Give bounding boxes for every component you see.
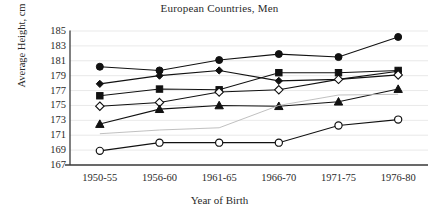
filled-triangle-marker	[394, 85, 402, 93]
filled-circle-marker	[335, 54, 342, 61]
open-diamond-marker	[96, 102, 104, 110]
filled-diamond-marker	[96, 80, 103, 87]
x-axis-tick: 1966-70	[261, 172, 296, 184]
open-circle-marker	[216, 139, 223, 146]
x-axis-tick: 1950-55	[82, 172, 117, 184]
filled-square-marker	[97, 93, 103, 99]
x-axis-tick-labels: 1950-551956-601961-651966-701971-751976-…	[70, 168, 428, 188]
filled-circle-marker	[395, 33, 402, 40]
filled-circle-marker	[275, 51, 282, 58]
open-diamond-marker	[275, 86, 283, 94]
series-filled-diamond	[96, 67, 402, 88]
open-circle-marker	[156, 139, 163, 146]
x-axis-tick: 1971-75	[321, 172, 356, 184]
series-faint-line	[100, 94, 398, 133]
axis-lines	[65, 31, 428, 166]
filled-circle-marker	[96, 63, 103, 70]
filled-square-marker	[276, 69, 282, 75]
gridlines	[70, 31, 428, 165]
open-circle-marker	[395, 116, 402, 123]
data-series-layer	[96, 33, 403, 154]
open-circle-marker	[335, 122, 342, 129]
series-filled-square-line	[100, 70, 398, 95]
filled-diamond-marker	[275, 77, 282, 84]
open-diamond-marker	[334, 75, 342, 83]
series-filled-circle-line	[100, 37, 398, 71]
filled-square-marker	[156, 86, 162, 92]
x-axis-tick: 1961-65	[202, 172, 237, 184]
open-circle-marker	[96, 147, 103, 154]
series-faint-line-line	[100, 94, 398, 133]
filled-circle-marker	[216, 57, 223, 64]
series-filled-square	[97, 67, 402, 99]
x-axis-tick: 1976-80	[381, 172, 416, 184]
series-filled-circle	[96, 33, 401, 74]
open-circle-marker	[275, 139, 282, 146]
chart-container: European Countries, Men Average Height, …	[0, 0, 439, 219]
series-filled-triangle-line	[100, 89, 398, 124]
x-axis-tick: 1956-60	[142, 172, 177, 184]
x-axis-label: Year of Birth	[0, 194, 439, 206]
filled-diamond-marker	[216, 67, 223, 74]
